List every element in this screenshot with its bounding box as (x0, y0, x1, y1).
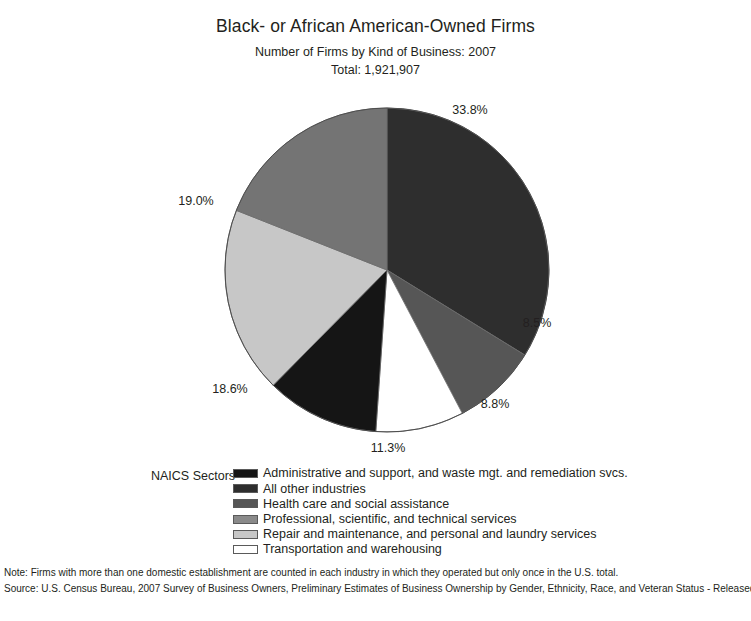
legend-item-label: Health care and social assistance (263, 498, 449, 511)
legend-item[interactable]: All other industries (233, 481, 628, 496)
legend: NAICS Sectors Administrative and support… (0, 466, 751, 554)
pie-slice-percent-label: 18.6% (212, 382, 247, 396)
legend-swatch-icon (233, 469, 258, 478)
legend-item-list: Administrative and support, and waste mg… (233, 466, 628, 557)
legend-item-label: All other industries (263, 483, 366, 496)
legend-title: NAICS Sectors (151, 469, 235, 483)
legend-item-label: Transportation and warehousing (263, 543, 442, 556)
legend-swatch-icon (233, 530, 258, 539)
pie-slice-percent-label: 8.8% (481, 397, 510, 411)
pie-chart: 33.8%8.5%8.8%11.3%18.6%19.0% (0, 0, 751, 465)
footnote-note: Note: Firms with more than one domestic … (4, 565, 749, 581)
footnotes: Note: Firms with more than one domestic … (4, 565, 749, 596)
pie-chart-svg (0, 0, 751, 465)
pie-slice-percent-label: 33.8% (452, 103, 487, 117)
pie-slice-percent-label: 19.0% (178, 194, 213, 208)
pie-slice-group (225, 108, 549, 432)
legend-swatch-icon (233, 515, 258, 524)
legend-item[interactable]: Professional, scientific, and technical … (233, 512, 628, 527)
legend-item[interactable]: Administrative and support, and waste mg… (233, 466, 628, 481)
pie-slice-percent-label: 11.3% (371, 441, 406, 455)
legend-item[interactable]: Health care and social assistance (233, 496, 628, 511)
legend-item[interactable]: Transportation and warehousing (233, 542, 628, 557)
legend-item-label: Administrative and support, and waste mg… (263, 467, 628, 480)
legend-item-label: Professional, scientific, and technical … (263, 513, 517, 526)
legend-item-label: Repair and maintenance, and personal and… (263, 528, 597, 541)
legend-swatch-icon (233, 484, 258, 493)
pie-slice-percent-label: 8.5% (523, 316, 552, 330)
legend-swatch-icon (233, 499, 258, 508)
legend-swatch-icon (233, 545, 258, 554)
legend-item[interactable]: Repair and maintenance, and personal and… (233, 527, 628, 542)
footnote-source: Source: U.S. Census Bureau, 2007 Survey … (4, 581, 749, 597)
